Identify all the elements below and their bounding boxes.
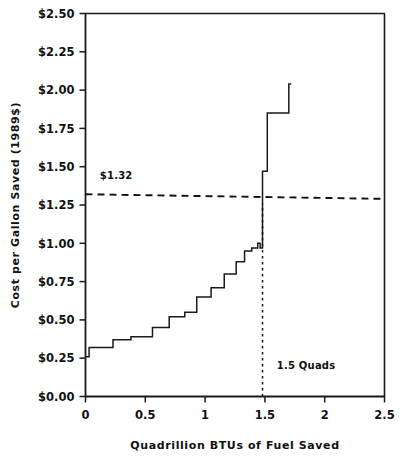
x-axis-title: Quadrillion BTUs of Fuel Saved xyxy=(130,439,339,452)
y-axis-tick-label: $0.75 xyxy=(38,275,74,289)
y-axis-tick-label: $0.25 xyxy=(38,351,74,365)
x-axis-tick-label: 1.5 xyxy=(255,408,275,422)
y-axis-tick-label: $0.00 xyxy=(38,390,74,404)
y-axis-tick-label: $2.00 xyxy=(38,83,74,97)
x-axis-tick-label: 0 xyxy=(81,408,89,422)
cost-per-gallon-saved-step-chart: $2.50$2.25$2.00$1.75$1.50$1.25$1.00$0.75… xyxy=(0,0,405,458)
y-axis-tick-label: $1.75 xyxy=(38,122,74,136)
chart-container: $2.50$2.25$2.00$1.75$1.50$1.25$1.00$0.75… xyxy=(0,0,405,458)
x-axis-tick-label: 0.5 xyxy=(135,408,155,422)
y-axis-tick-label: $2.25 xyxy=(38,45,74,59)
y-axis-title: Cost per Gallon Saved (1989$) xyxy=(9,102,22,308)
x-axis-tick-label: 1 xyxy=(201,408,209,422)
x-axis-tick-label: 2 xyxy=(321,408,329,422)
y-axis-tick-label: $1.00 xyxy=(38,237,74,251)
y-axis-tick-label: $1.25 xyxy=(38,198,74,212)
quads-marker-annotation: 1.5 Quads xyxy=(277,360,335,371)
y-axis-tick-label: $1.50 xyxy=(38,160,74,174)
price-line-annotation: $1.32 xyxy=(100,170,133,181)
y-axis-tick-label: $0.50 xyxy=(38,313,74,327)
y-axis-tick-label: $2.50 xyxy=(38,7,74,21)
x-axis-tick-label: 2.5 xyxy=(374,408,394,422)
